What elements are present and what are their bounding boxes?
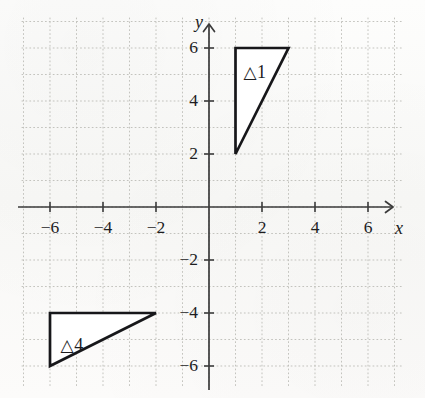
triangle-4-label: △4	[61, 336, 84, 354]
y-tick-label: 2	[189, 145, 198, 163]
triangle-1-number: 1	[257, 62, 267, 82]
x-tick-label: −4	[94, 219, 113, 237]
x-tick-label: −6	[41, 219, 60, 237]
triangle-4-number: 4	[74, 335, 84, 355]
triangle-glyph-icon: △	[243, 63, 257, 82]
x-tick-label: −2	[147, 219, 166, 237]
x-tick-label: 4	[311, 219, 320, 237]
triangle-1-label: △1	[243, 63, 266, 81]
y-tick-label: −2	[179, 251, 198, 269]
y-tick-label: 6	[189, 39, 198, 57]
x-tick-label: 6	[364, 219, 373, 237]
y-axis-label: y	[195, 13, 203, 31]
triangle-glyph-icon: △	[61, 336, 75, 355]
figure-canvas: x y −6−4−2246642−2−4−6 △1△4	[0, 0, 425, 398]
y-tick-label: −4	[179, 304, 198, 322]
x-tick-label: 2	[258, 219, 267, 237]
y-tick-label: 4	[189, 92, 198, 110]
x-axis-label: x	[395, 219, 403, 237]
y-tick-label: −6	[179, 357, 198, 375]
